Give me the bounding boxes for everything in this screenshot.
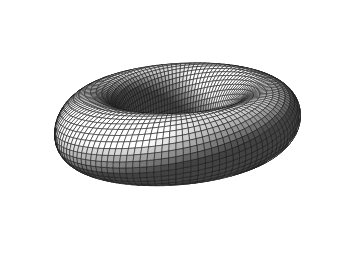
twisted-torus-render (0, 0, 350, 253)
figure-root: Grayscale shaded rendering of a self-int… (0, 0, 350, 253)
